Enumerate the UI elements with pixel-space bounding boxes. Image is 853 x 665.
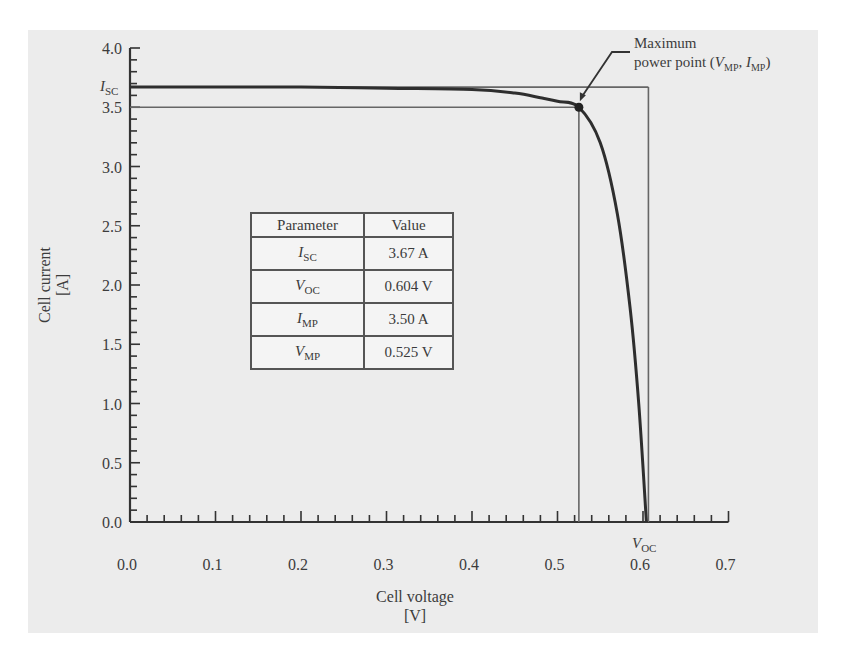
table-header-row: Parameter Value	[251, 213, 453, 237]
x-axis-unit: [V]	[404, 607, 426, 624]
table-cell-parameter: VMP	[251, 336, 364, 369]
y-tick-label: 0.5	[102, 455, 122, 472]
y-tick-label: 1.5	[102, 336, 122, 353]
table-row: ISC 3.67 A	[251, 237, 453, 270]
table-header-parameter: Parameter	[251, 213, 364, 237]
y-tick-label: 1.0	[102, 396, 122, 413]
table-cell-value: 3.67 A	[364, 237, 453, 270]
y-tick-label: 3.0	[102, 159, 122, 176]
parameter-table: Parameter Value ISC 3.67 A VOC 0.604 V I…	[250, 212, 454, 370]
y-axis-title: Cell current	[36, 246, 53, 323]
table-cell-value: 0.525 V	[364, 336, 453, 369]
y-tick-label: 4.0	[102, 40, 122, 57]
y-tick-label: 2.5	[102, 218, 122, 235]
table-header-value: Value	[364, 213, 453, 237]
y-tick-label: 0.0	[102, 514, 122, 531]
max-power-point-marker	[574, 103, 583, 112]
figure-page: 0.00.51.01.52.02.53.03.54.00.00.10.20.30…	[28, 30, 818, 633]
table-cell-parameter: IMP	[251, 303, 364, 336]
table-cell-parameter: VOC	[251, 270, 364, 303]
x-tick-label: 0.2	[288, 556, 308, 573]
x-tick-label: 0.4	[459, 556, 479, 573]
y-tick-label: 2.0	[102, 277, 122, 294]
table-row: VMP 0.525 V	[251, 336, 453, 369]
annotation-leader-line	[583, 52, 630, 95]
x-tick-label: 0.1	[203, 556, 223, 573]
table-cell-value: 3.50 A	[364, 303, 453, 336]
table-cell-value: 0.604 V	[364, 270, 453, 303]
table-cell-parameter: ISC	[251, 237, 364, 270]
table-row: IMP 3.50 A	[251, 303, 453, 336]
voc-axis-label: VOC	[632, 535, 656, 554]
mpp-label-line1: Maximum	[634, 35, 697, 51]
mpp-label-line2: power point (VMP, IMP)	[634, 54, 770, 73]
x-tick-label: 0.3	[374, 556, 394, 573]
x-tick-label: 0.0	[117, 556, 137, 573]
y-tick-label: 3.5	[102, 99, 122, 116]
isc-axis-label: ISC	[99, 78, 118, 97]
x-tick-label: 0.5	[545, 556, 565, 573]
table-row: VOC 0.604 V	[251, 270, 453, 303]
x-axis-title: Cell voltage	[376, 588, 454, 606]
x-tick-label: 0.7	[716, 556, 736, 573]
x-tick-label: 0.6	[630, 556, 650, 573]
y-axis-unit: [A]	[54, 274, 71, 296]
